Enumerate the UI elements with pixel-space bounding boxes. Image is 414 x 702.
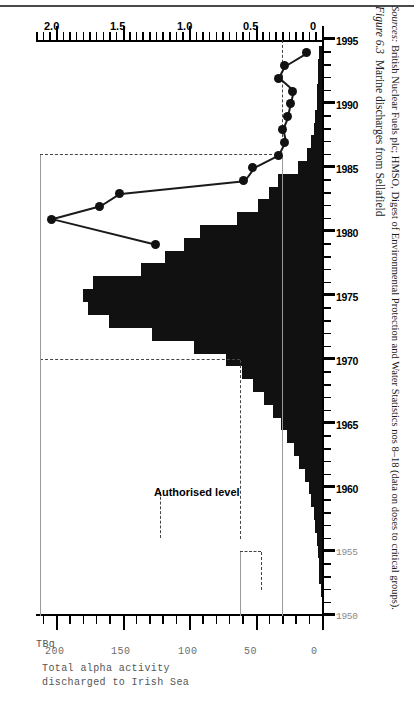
tbq-tick-50 [256, 616, 258, 630]
year-tick-1991 [324, 90, 331, 92]
year-tick-label-1985: 1985 [336, 163, 358, 175]
bar-1954 [319, 558, 322, 571]
msv-tick-1.95 [63, 32, 65, 40]
msv-tick-1.35 [142, 32, 144, 40]
year-tick-1963 [324, 448, 331, 450]
msv-tick-1.45 [129, 32, 131, 40]
year-tick-1952 [324, 589, 331, 591]
year-tick-label-1955: 1955 [336, 547, 358, 558]
bar-1991 [317, 84, 322, 97]
tbq-tick-130 [149, 616, 151, 624]
bar-1956 [317, 532, 322, 545]
dose-point-1983 [115, 189, 124, 198]
year-tick-1973 [324, 320, 331, 322]
tbq-tick-160 [109, 616, 111, 624]
legend-authorised-label: Authorised level [154, 486, 240, 498]
dose-point-1994 [302, 48, 311, 57]
tbq-tick-20 [295, 616, 297, 624]
dose-point-1979 [151, 240, 160, 249]
tbq-tick-190 [69, 616, 71, 624]
msv-tick-label-2.0: 2.0 [44, 20, 59, 32]
authorised-level-segment [240, 360, 241, 539]
year-tick-1955 [324, 550, 335, 553]
year-tick-1968 [324, 384, 331, 386]
msv-tick-label-1.5: 1.5 [110, 20, 125, 32]
msv-tick-0.05 [315, 32, 317, 40]
tbq-tick-60 [242, 616, 244, 624]
year-tick-1953 [324, 576, 331, 578]
plot-area [36, 41, 322, 616]
guide-rule-2 [40, 155, 41, 616]
dose-point-1991 [288, 87, 297, 96]
year-tick-1976 [324, 282, 331, 284]
tbq-tick-label-0: 0 [311, 646, 318, 657]
tbq-tick-120 [162, 616, 164, 624]
year-tick-1959 [324, 499, 331, 501]
year-tick-label-1950: 1950 [336, 611, 358, 622]
year-tick-1961 [324, 474, 331, 476]
bar-1959 [311, 494, 322, 507]
bar-1958 [314, 507, 322, 520]
tbq-tick-30 [282, 616, 284, 624]
dose-point-1981 [47, 215, 56, 224]
bar-1980 [200, 225, 322, 238]
bar-1979 [184, 238, 322, 251]
msv-tick-label-0: 0 [310, 20, 316, 32]
bar-1966 [273, 404, 322, 417]
msv-tick-0.25 [289, 32, 291, 40]
dose-point-1987 [280, 138, 289, 147]
bar-1955 [318, 545, 322, 558]
msv-tick-0.60 [242, 32, 244, 40]
msv-tick-1.85 [76, 32, 78, 40]
year-tick-1990 [324, 102, 335, 105]
bar-1993 [318, 59, 322, 72]
bar-1977 [141, 263, 322, 276]
bar-1983 [269, 187, 322, 200]
year-tick-1992 [324, 77, 331, 79]
bar-1984 [278, 174, 322, 187]
bar-1972 [152, 327, 322, 340]
dose-point-1985 [248, 164, 257, 173]
msv-tick-2.05 [49, 32, 51, 40]
year-tick-1984 [324, 179, 331, 181]
bar-1967 [264, 391, 323, 404]
authorised-level-step [40, 359, 240, 360]
figure-page: 1950195519601965197019751980198519901995… [0, 0, 414, 702]
left-axis-unit: TBq [36, 638, 55, 652]
bar-1952 [321, 583, 322, 596]
bar-1968 [253, 379, 322, 392]
msv-tick-0.10 [309, 32, 311, 40]
bar-1960 [309, 481, 322, 494]
dose-line-segment [53, 218, 157, 246]
msv-tick-1.10 [176, 32, 178, 40]
bar-1974 [88, 302, 322, 315]
guide-rule-3 [282, 155, 283, 616]
year-tick-1971 [324, 346, 331, 348]
year-tick-1965 [324, 422, 335, 425]
bar-1964 [287, 430, 322, 443]
tbq-tick-150 [123, 616, 125, 630]
year-tick-1958 [324, 512, 331, 514]
tbq-tick-100 [189, 616, 191, 630]
year-tick-1983 [324, 192, 331, 194]
year-tick-1979 [324, 243, 331, 245]
msv-tick-2.10 [43, 32, 45, 40]
year-axis-line [322, 40, 324, 616]
bar-1973 [109, 315, 322, 328]
left-axis-title: Total alpha activity discharged to Irish… [42, 662, 189, 689]
year-tick-1970 [324, 358, 335, 361]
caption-sources-label: Sources: [390, 6, 401, 42]
msv-tick-0.70 [229, 32, 231, 40]
tbq-tick-80 [216, 616, 218, 624]
msv-tick-0.80 [216, 32, 218, 40]
caption-title-line: Figure 6.3 Marine discharges from Sellaf… [374, 6, 386, 216]
msv-tick-0.65 [236, 32, 238, 40]
msv-tick-0.20 [295, 32, 297, 40]
year-tick-1977 [324, 269, 331, 271]
authorised-level-segment [261, 552, 262, 590]
year-tick-1950 [324, 614, 335, 617]
msv-tick-0.90 [202, 32, 204, 40]
legend-dash-sample [160, 492, 161, 538]
year-tick-1989 [324, 115, 331, 117]
chart-rotation-wrapper: 1950195519601965197019751980198519901995… [0, 0, 372, 702]
